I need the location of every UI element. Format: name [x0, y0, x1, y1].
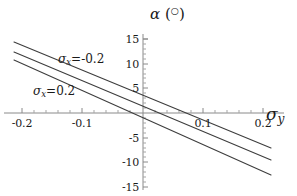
y-tick-label-minus-5: -5: [119, 132, 139, 145]
x-axis-title-subscript: y: [278, 112, 285, 126]
y-tick-label-10: 10: [124, 58, 139, 71]
x-tick-label-minus-0-2: -0.2: [7, 117, 37, 130]
annotation-sigma-x-negative-value: =-0.2: [71, 52, 104, 66]
y-tick-label-minus-15: -15: [113, 181, 139, 194]
chart-figure: α (○) σy 15 10 5 -5 -10 -15 -0.2 -0.1 0.…: [0, 0, 297, 196]
y-axis-title-symbol: α: [150, 5, 160, 23]
annotation-sigma-x-negative-symbol: σ: [58, 52, 66, 66]
y-axis-title-unit: (○): [160, 5, 185, 23]
x-tick-label-0-1: 0.1: [190, 117, 216, 130]
y-tick-label-5: 5: [124, 82, 139, 95]
y-tick-label-15: 15: [124, 33, 139, 46]
annotation-sigma-x-positive-symbol: σ: [33, 84, 41, 98]
annotation-sigma-x-positive-value: =0.2: [46, 84, 75, 98]
annotation-sigma-x-positive: σx=0.2: [33, 84, 75, 99]
x-tick-label-minus-0-1: -0.1: [67, 117, 97, 130]
x-tick-label-0-2: 0.2: [250, 117, 276, 130]
y-tick-label-minus-10: -10: [113, 156, 139, 169]
y-axis-title: α (○): [150, 5, 185, 23]
annotation-sigma-x-negative: σx=-0.2: [58, 52, 104, 67]
